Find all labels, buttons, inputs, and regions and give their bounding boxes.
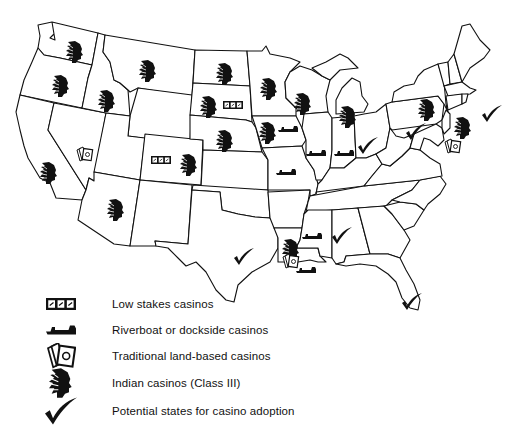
riverboat-icon [40,316,82,344]
indian-head-icon [40,369,82,397]
legend-label: Traditional land-based casinos [112,350,271,362]
state-kansas[interactable] [201,150,268,190]
state-outlines [16,22,490,310]
legend-label: Low stakes casinos [112,298,214,310]
state-maryland[interactable] [410,124,444,150]
legend-item-low-stakes: Low stakes casinos [40,291,214,317]
riverboat-icon [296,267,316,273]
legend-item-indian: Indian casinos (Class III) [40,370,241,396]
state-rhode-island[interactable] [462,94,468,104]
checkmark-icon [40,397,82,425]
legend-label: Potential states for casino adoption [112,405,295,417]
cards-icon [77,147,93,161]
low-stakes-icon [223,101,243,109]
checkmark-icon [482,105,502,122]
state-florida[interactable] [336,254,420,310]
state-maine[interactable] [454,24,490,82]
low-stakes-icon [151,156,171,164]
legend-item-land-based: Traditional land-based casinos [40,343,271,369]
cards-icon [445,139,461,153]
state-connecticut[interactable] [446,94,462,110]
legend-item-riverboat: Riverboat or dockside casinos [40,317,268,343]
cards-icon [283,254,299,268]
low-stakes-icon [40,290,82,318]
state-new-mexico[interactable] [130,180,192,246]
legend-item-potential: Potential states for casino adoption [40,398,295,424]
indian-head-icon [454,117,471,139]
legend-label: Riverboat or dockside casinos [112,324,268,336]
legend-label: Indian casinos (Class III) [112,377,241,389]
cards-icon [40,342,82,370]
